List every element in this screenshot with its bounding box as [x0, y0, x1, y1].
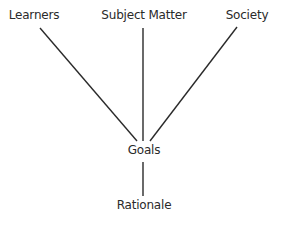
node-goals: Goals	[128, 143, 161, 157]
edge-society-goals	[150, 27, 237, 141]
node-learners: Learners	[9, 8, 60, 22]
node-society: Society	[226, 8, 269, 22]
node-subject-matter: Subject Matter	[101, 8, 186, 22]
node-rationale: Rationale	[117, 198, 172, 212]
edge-learners-goals	[40, 28, 137, 141]
